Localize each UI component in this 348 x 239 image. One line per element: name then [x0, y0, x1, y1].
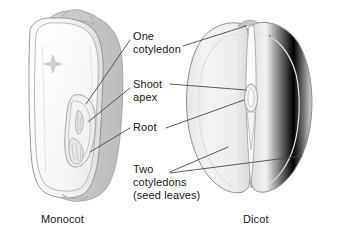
dicot-micropyle-mark: [269, 35, 272, 38]
seed-structure-figure: One cotyledon Shoot apex Root Two cotyle…: [0, 0, 348, 239]
label-shoot-apex: Shoot apex: [133, 78, 162, 104]
label-two-cotyledons: Two cotyledons (seed leaves): [133, 163, 200, 202]
label-one-cotyledon: One cotyledon: [133, 30, 181, 56]
dicot-cotyledon-right: [250, 22, 312, 192]
caption-dicot: Dicot: [243, 213, 269, 225]
caption-monocot: Monocot: [41, 213, 84, 225]
label-root: Root: [133, 121, 157, 134]
dicot-embryo-axis-core: [248, 89, 254, 107]
dicot-seed-illustration: [187, 20, 312, 193]
